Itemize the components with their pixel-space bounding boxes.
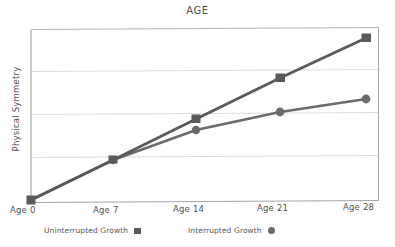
square-marker-icon bbox=[134, 228, 141, 234]
data-point bbox=[276, 108, 285, 117]
legend-entry-interrupted-growth: Interrupted Growth bbox=[188, 226, 275, 235]
chart-legend: Uninterrupted Growth Interrupted Growth bbox=[0, 224, 395, 244]
x-tick-label-3: Age 21 bbox=[257, 203, 288, 213]
data-point bbox=[109, 156, 118, 164]
circle-marker-icon bbox=[268, 227, 275, 234]
x-tick-label-4: Age 28 bbox=[343, 202, 374, 212]
legend-label: Interrupted Growth bbox=[188, 226, 262, 235]
legend-label: Uninterrupted Growth bbox=[44, 226, 128, 235]
series-interrupted-growth bbox=[31, 95, 370, 200]
data-point bbox=[192, 126, 200, 134]
data-point bbox=[27, 196, 36, 205]
data-point bbox=[362, 95, 371, 104]
data-point bbox=[276, 74, 286, 83]
x-tick-label-0: Age 0 bbox=[10, 205, 36, 215]
data-point bbox=[192, 115, 201, 124]
series-uninterrupted-growth bbox=[27, 34, 372, 205]
x-tick-label-2: Age 14 bbox=[173, 204, 204, 214]
line-chart-figure: AGE Physical Symmetry bbox=[0, 0, 395, 247]
x-tick-label-1: Age 7 bbox=[93, 205, 119, 215]
data-point bbox=[362, 34, 372, 43]
legend-entry-uninterrupted-growth: Uninterrupted Growth bbox=[44, 226, 141, 235]
